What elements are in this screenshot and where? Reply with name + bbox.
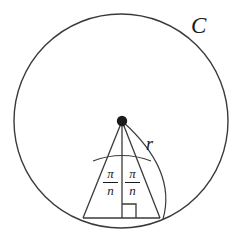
geometry-diagram-canvas [0,0,245,240]
angle-left-numerator: π [105,167,116,181]
angle-label-left: π n [103,167,118,197]
angle-right-numerator: π [127,167,138,181]
right-angle-marker [122,204,136,218]
angle-label-right: π n [125,167,140,197]
angle-left-denominator: n [105,184,116,198]
angle-right-denominator: n [127,184,138,198]
center-point-dot [117,116,127,126]
circle-label-c: C [191,14,206,37]
geometry-figure: C r π n π n [0,0,245,240]
radius-label-r: r [146,135,153,153]
